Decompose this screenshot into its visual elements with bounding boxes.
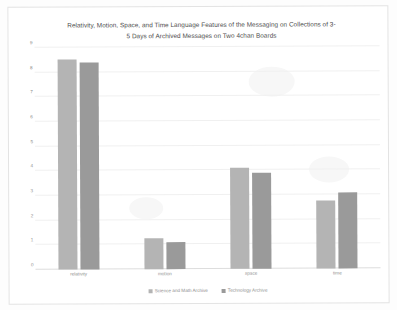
chart-title-line-1: Relativity, Motion, Space, and Time Lang… <box>38 18 364 30</box>
bars-layer <box>35 46 381 270</box>
y-tick-label: 4 <box>17 164 33 169</box>
x-axis: relativitymotionspacetime <box>36 270 381 282</box>
y-axis: 0123456789 <box>17 48 34 270</box>
bar-group <box>35 46 381 270</box>
chart-frame: Relativity, Motion, Space, and Time Lang… <box>7 5 389 305</box>
legend-label: Technology Archive <box>228 288 268 293</box>
x-tick-label: space <box>208 271 294 277</box>
y-tick-label: 0 <box>17 262 33 267</box>
y-tick-label: 3 <box>17 188 33 193</box>
legend-item[interactable]: Science and Math Archive <box>149 288 208 293</box>
chart-legend: Science and Math ArchiveTechnology Archi… <box>36 287 381 294</box>
y-tick-label: 1 <box>17 238 33 243</box>
y-tick-label: 7 <box>17 90 33 95</box>
legend-swatch-icon <box>222 288 226 292</box>
x-tick-label: time <box>294 270 380 276</box>
y-tick-label: 2 <box>17 213 33 218</box>
chart-page: Relativity, Motion, Space, and Time Lang… <box>0 0 397 310</box>
bar[interactable] <box>317 201 336 269</box>
y-tick-label: 8 <box>17 65 33 70</box>
x-tick-label: motion <box>122 271 208 277</box>
y-tick-label: 6 <box>17 114 33 119</box>
chart-title-line-2: 5 Days of Archived Messages on Two 4chan… <box>38 29 364 41</box>
y-tick-label: 9 <box>16 40 32 45</box>
y-tick-label: 5 <box>17 139 33 144</box>
bar[interactable] <box>339 192 358 269</box>
plot-area <box>35 46 381 270</box>
legend-swatch-icon <box>149 289 153 293</box>
legend-item[interactable]: Technology Archive <box>222 288 268 293</box>
x-tick-label: relativity <box>36 271 122 277</box>
legend-label: Science and Math Archive <box>155 288 208 293</box>
chart-title: Relativity, Motion, Space, and Time Lang… <box>38 18 364 41</box>
